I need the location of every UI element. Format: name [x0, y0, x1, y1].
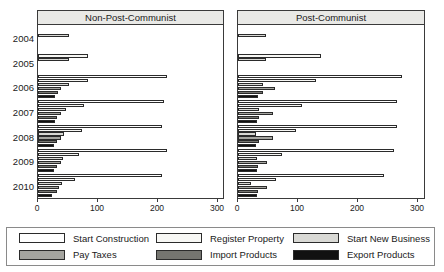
year-label-2007: 2007 [2, 107, 34, 118]
x-tick-label-300: 300 [402, 203, 432, 213]
bar-register-property-2009 [238, 153, 282, 156]
bar-start-new-business-2007 [38, 108, 66, 111]
grouped-bar-chart-figure: Non-Post-Communist Post-Communist 200420… [0, 0, 444, 272]
year-label-2004: 2004 [2, 33, 34, 44]
bar-start-construction-2008 [238, 125, 397, 128]
bar-register-property-2008 [38, 129, 82, 132]
year-label-2006: 2006 [2, 82, 34, 93]
legend-swatch-icon [19, 233, 65, 243]
bar-start-new-business-2008 [38, 132, 64, 135]
legend-item-start-new-business: Start New Business [293, 233, 430, 244]
bar-pay-taxes-2010 [38, 186, 59, 189]
x-tick-label-0: 0 [22, 203, 52, 213]
bar-start-construction-2009 [38, 149, 167, 152]
legend-label: Export Products [347, 249, 415, 260]
bar-import-products-2010 [38, 190, 57, 193]
legend-label: Start New Business [347, 233, 430, 244]
bar-register-property-2010 [238, 178, 276, 181]
bar-export-products-2008 [238, 144, 256, 147]
bar-import-products-2006 [238, 91, 263, 94]
bar-export-products-2006 [38, 95, 55, 98]
bar-start-construction-2006 [38, 75, 167, 78]
legend-item-start-construction: Start Construction [19, 233, 156, 244]
plot-area-post-communist [237, 24, 425, 199]
bar-import-products-2007 [238, 116, 259, 119]
bar-start-new-business-2004 [238, 34, 266, 37]
bar-start-construction-2009 [238, 149, 394, 152]
bar-import-products-2009 [38, 165, 57, 168]
bar-start-construction-2010 [238, 174, 384, 177]
bar-export-products-2009 [38, 169, 54, 172]
bar-register-property-2008 [238, 129, 296, 132]
bar-register-property-2007 [38, 104, 84, 107]
bar-import-products-2007 [38, 116, 57, 119]
bar-start-construction-2008 [38, 125, 162, 128]
bar-start-new-business-2007 [238, 108, 259, 111]
legend-swatch-icon [19, 250, 65, 260]
x-tick-mark [157, 199, 158, 202]
bar-start-new-business-2006 [38, 83, 69, 86]
bar-export-products-2009 [238, 169, 257, 172]
bar-start-construction-2007 [238, 100, 397, 103]
x-tick-label-100: 100 [282, 203, 312, 213]
bar-import-products-2009 [238, 165, 258, 168]
bar-start-new-business-2008 [238, 132, 256, 135]
legend-label: Import Products [210, 249, 277, 260]
bar-register-property-2005 [238, 54, 321, 57]
bar-export-products-2008 [38, 144, 54, 147]
x-tick-label-200: 200 [342, 203, 372, 213]
x-tick-label-0: 0 [222, 203, 252, 213]
bar-import-products-2006 [38, 91, 58, 94]
bar-pay-taxes-2006 [238, 87, 275, 90]
bar-import-products-2008 [238, 140, 259, 143]
year-label-2008: 2008 [2, 132, 34, 143]
bar-pay-taxes-2010 [238, 186, 267, 189]
x-tick-mark [417, 199, 418, 202]
legend-swatch-icon [293, 233, 339, 243]
legend-item-register-property: Register Property [156, 233, 293, 244]
legend-item-pay-taxes: Pay Taxes [19, 249, 156, 260]
bar-register-property-2007 [238, 104, 302, 107]
x-tick-mark [37, 199, 38, 202]
legend-item-export-products: Export Products [293, 249, 430, 260]
legend: Start ConstructionRegister PropertyStart… [6, 227, 435, 266]
bar-pay-taxes-2007 [238, 112, 273, 115]
legend-swatch-icon [156, 233, 202, 243]
bar-start-new-business-2005 [38, 58, 69, 61]
bar-export-products-2007 [38, 120, 55, 123]
legend-label: Pay Taxes [73, 249, 117, 260]
bar-import-products-2010 [238, 190, 258, 193]
legend-label: Start Construction [73, 233, 149, 244]
bar-pay-taxes-2008 [238, 136, 273, 139]
legend-swatch-icon [156, 250, 202, 260]
bar-start-construction-2010 [38, 174, 162, 177]
bar-pay-taxes-2009 [238, 161, 267, 164]
bar-start-construction-2007 [38, 100, 164, 103]
x-tick-label-200: 200 [142, 203, 172, 213]
bar-import-products-2008 [38, 140, 57, 143]
bar-register-property-2006 [38, 79, 88, 82]
bar-register-property-2009 [38, 153, 79, 156]
bar-pay-taxes-2006 [38, 87, 61, 90]
legend-item-import-products: Import Products [156, 249, 293, 260]
x-tick-mark [237, 199, 238, 202]
bar-start-new-business-2006 [238, 83, 263, 86]
bar-register-property-2006 [238, 79, 316, 82]
bar-pay-taxes-2009 [38, 161, 61, 164]
x-tick-mark [357, 199, 358, 202]
year-label-2009: 2009 [2, 156, 34, 167]
x-tick-mark [297, 199, 298, 202]
bar-start-new-business-2005 [238, 58, 266, 61]
x-tick-mark [97, 199, 98, 202]
plot-area-non-post-communist [37, 24, 224, 199]
bar-start-new-business-2009 [238, 157, 257, 160]
year-label-2005: 2005 [2, 58, 34, 69]
bar-start-new-business-2010 [238, 182, 251, 185]
bar-pay-taxes-2007 [38, 112, 61, 115]
x-tick-mark [217, 199, 218, 202]
bar-export-products-2010 [38, 194, 52, 197]
bar-start-new-business-2004 [38, 34, 69, 37]
bar-start-new-business-2009 [38, 157, 63, 160]
bar-register-property-2010 [38, 178, 75, 181]
bar-start-construction-2006 [238, 75, 402, 78]
